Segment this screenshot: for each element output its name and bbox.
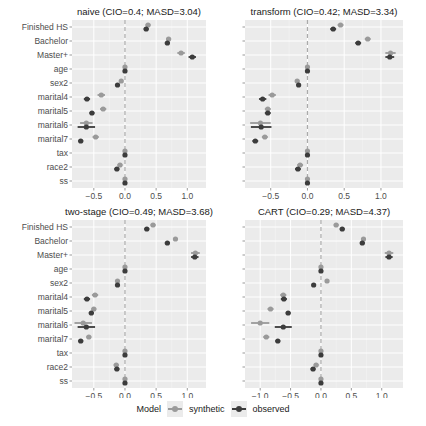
observed-point <box>281 324 286 329</box>
synthetic-point <box>264 334 269 339</box>
panel-title: naive (CIO=0.4; MASD=3.04) <box>77 6 201 17</box>
x-tick-label: 1.0 <box>375 191 387 201</box>
y-tick-label: marital7 <box>38 334 69 344</box>
panel-background <box>72 20 206 188</box>
synthetic-point <box>178 50 183 55</box>
y-tick-label: ss <box>60 376 69 386</box>
x-tick-label: 0.0 <box>302 191 314 201</box>
y-tick-label: race2 <box>47 162 69 172</box>
synthetic-point <box>86 334 91 339</box>
observed-point <box>114 166 119 171</box>
observed-point <box>115 282 120 287</box>
observed-point <box>318 268 323 273</box>
observed-point <box>192 254 197 259</box>
synthetic-point <box>101 106 106 111</box>
y-tick-label: ss <box>60 176 69 186</box>
y-tick-label: sex2 <box>50 278 68 288</box>
x-tick-label: 1.0 <box>376 391 388 398</box>
observed-point <box>122 352 127 357</box>
coefficient-plot-figure: naive (CIO=0.4; MASD=3.04)−0.50.00.51.0F… <box>0 0 426 398</box>
observed-point <box>318 380 323 385</box>
synthetic-point <box>119 78 124 83</box>
x-tick-label: 1.0 <box>181 191 193 201</box>
observed-point <box>305 180 310 185</box>
panel-title: transform (CIO=0.42; MASD=3.34) <box>251 6 398 17</box>
synthetic-legend-key-icon <box>167 401 183 417</box>
y-tick-label: marital6 <box>38 120 69 130</box>
y-tick-label: sex2 <box>50 78 68 88</box>
observed-point <box>144 26 149 31</box>
synthetic-point <box>262 134 267 139</box>
observed-point <box>84 96 89 101</box>
observed-point <box>311 282 316 287</box>
x-tick-label: 0.0 <box>119 391 131 398</box>
panel-title: CART (CIO=0.29; MASD=4.37) <box>258 206 390 217</box>
synthetic-point <box>99 92 104 97</box>
x-tick-label: −0.5 <box>85 191 102 201</box>
observed-point <box>260 96 265 101</box>
observed-point <box>84 296 89 301</box>
panel-naive: naive (CIO=0.4; MASD=3.04)−0.50.00.51.0F… <box>22 6 206 201</box>
observed-point <box>275 338 280 343</box>
synthetic-point <box>93 134 98 139</box>
synthetic-point <box>324 278 329 283</box>
y-tick-label: marital7 <box>38 134 69 144</box>
observed-point <box>78 338 83 343</box>
synthetic-point <box>338 22 343 27</box>
observed-point <box>190 54 195 59</box>
panel-two-stage: two-stage (CIO=0.49; MASD=3.68)−0.50.00.… <box>22 206 213 398</box>
y-tick-label: marital4 <box>38 292 69 302</box>
x-tick-label: −0.5 <box>262 191 279 201</box>
legend: Model synthetic observed <box>0 398 426 420</box>
observed-point <box>295 166 300 171</box>
x-tick-label: −1.0 <box>252 391 269 398</box>
y-tick-label: marital5 <box>38 306 69 316</box>
synthetic-point <box>173 236 178 241</box>
observed-point <box>356 40 361 45</box>
observed-point <box>281 296 286 301</box>
observed-point <box>296 82 301 87</box>
observed-point <box>305 152 310 157</box>
y-tick-label: race2 <box>47 362 69 372</box>
observed-point <box>265 110 270 115</box>
synthetic-point <box>150 222 155 227</box>
y-tick-label: Bachelor <box>34 36 68 46</box>
panel-CART: CART (CIO=0.29; MASD=4.37)−1.0−0.50.00.5… <box>243 206 404 398</box>
synthetic-point <box>270 92 275 97</box>
y-tick-label: marital5 <box>38 106 69 116</box>
synthetic-point <box>258 320 263 325</box>
observed-point <box>286 310 291 315</box>
panel-transform: transform (CIO=0.42; MASD=3.34)−0.50.00.… <box>243 6 404 201</box>
legend-title: Model <box>136 404 161 414</box>
panel-background <box>245 220 403 388</box>
panel-background <box>245 20 403 188</box>
y-tick-label: tax <box>57 348 69 358</box>
observed-point <box>340 226 345 231</box>
synthetic-point <box>92 292 97 297</box>
observed-point <box>386 254 391 259</box>
x-tick-label: 0.5 <box>150 191 162 201</box>
observed-point <box>89 110 94 115</box>
y-tick-label: age <box>54 64 68 74</box>
observed-point <box>387 54 392 59</box>
observed-point <box>122 68 127 73</box>
synthetic-point <box>365 36 370 41</box>
panel-background <box>72 220 206 388</box>
observed-point <box>114 366 119 371</box>
observed-point <box>122 380 127 385</box>
y-tick-label: age <box>54 264 68 274</box>
observed-point <box>122 152 127 157</box>
x-tick-label: 0.0 <box>315 391 327 398</box>
observed-legend-key-icon <box>231 401 247 417</box>
observed-point <box>165 240 170 245</box>
observed-point <box>360 240 365 245</box>
observed-point <box>259 124 264 129</box>
observed-point <box>331 26 336 31</box>
x-tick-label: −0.5 <box>85 391 102 398</box>
panel-title: two-stage (CIO=0.49; MASD=3.68) <box>65 206 213 217</box>
observed-point <box>84 324 89 329</box>
observed-point <box>122 180 127 185</box>
observed-point <box>305 68 310 73</box>
observed-point <box>253 138 258 143</box>
observed-point <box>84 124 89 129</box>
